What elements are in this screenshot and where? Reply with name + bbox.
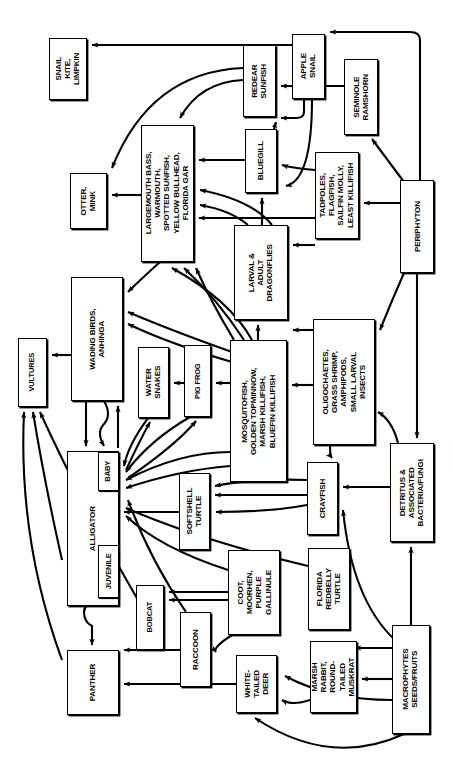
node-marsh-rabbit[interactable]: MARSH RABBIT, ROUND- TAILED MUSKRAT — [310, 641, 357, 713]
node-label: JUVENILE — [104, 554, 112, 590]
node-florida-redbelly-turtle[interactable]: FLORIDA REDBELLY TURTLE — [308, 548, 350, 630]
food-web-diagram: SNAIL KITE, LIMPKINREDEAR SUNFISHAPPLE S… — [0, 0, 453, 771]
node-tadpoles-flagfish[interactable]: TADPOLES, FLAGFISH, SAILFIN MOLLY, LEAST… — [315, 152, 359, 239]
node-bluegill[interactable]: BLUEGILL — [245, 129, 277, 193]
node-label: REDEAR SUNFISH — [250, 64, 268, 98]
node-water-snakes[interactable]: WATER SNAKES — [138, 347, 169, 418]
node-label: MACROPHYTES SEEDS/FRUITS — [402, 649, 420, 710]
node-softshell-turtle[interactable]: SOFTSHELL TURTLE — [179, 473, 210, 550]
node-mosquitofish[interactable]: MOSQUITOFISH, GOLDEN TOPMINNOW, MARSH KI… — [230, 340, 287, 482]
node-label: WATER SNAKES — [144, 366, 162, 399]
node-largemouth-bass[interactable]: LARGEMOUTH BASS, WARMOUTH, SPOTTED SUNFI… — [141, 125, 194, 262]
node-label: LARGEMOUTH BASS, WARMOUTH, SPOTTED SUNFI… — [144, 152, 190, 235]
node-seminole-ramshorn[interactable]: SEMINOLE RAMSHORN — [344, 59, 378, 135]
node-snail-kite-limpkin[interactable]: SNAIL KITE, LIMPKIN — [49, 38, 87, 100]
node-pig-frog[interactable]: PIG FROG — [184, 345, 211, 417]
node-label: DETRITUS & ASSOCIATED BACTERIA/FUNGI — [398, 459, 426, 526]
node-label: LARVAL & ADULT DRAGONFLIES — [247, 244, 275, 301]
node-label: COOT, MOORHEN, PURPLE GALLINULE — [236, 570, 273, 615]
node-redear-sunfish[interactable]: REDEAR SUNFISH — [243, 45, 276, 117]
node-alligator-baby[interactable]: BABY — [98, 452, 119, 491]
node-bobcat[interactable]: BOBCAT — [136, 585, 164, 650]
node-label: MOSQUITOFISH, GOLDEN TOPMINNOW, MARSH KI… — [240, 367, 277, 454]
node-wading-birds-anhinga[interactable]: WADING BIRDS, ANHINGA — [71, 277, 123, 401]
node-otter-mink[interactable]: OTTER, MINK — [70, 173, 107, 229]
node-alligator-juvenile[interactable]: JUVENILE — [98, 545, 119, 598]
node-larval-adult-dragonflies[interactable]: LARVAL & ADULT DRAGONFLIES — [234, 225, 288, 320]
node-label: ALLIGATOR — [88, 506, 97, 551]
node-label: WADING BIRDS, ANHINGA — [88, 308, 106, 369]
node-label: RACCOON — [191, 629, 200, 670]
node-crayfish[interactable]: CRAYFISH — [307, 462, 338, 535]
node-label: OTTER, MINK — [79, 187, 97, 216]
node-label: APPLE SNAIL — [299, 53, 317, 79]
node-panther[interactable]: PANTHER — [67, 650, 119, 715]
node-label: PERIPHYTON — [412, 201, 421, 252]
node-oligochaetes[interactable]: OLIGOCHAETES, GRASS SHRIMP, AMPHIPODS, S… — [313, 319, 375, 445]
node-label: VULTURES — [28, 353, 36, 392]
node-label: SNAIL KITE, LIMPKIN — [54, 53, 82, 85]
node-raccoon[interactable]: RACCOON — [180, 612, 211, 687]
node-label: MARSH RABBIT, ROUND- TAILED MUSKRAT — [310, 658, 356, 697]
node-white-tailed-deer[interactable]: WHITE- TAILED DEER — [236, 655, 277, 713]
node-apple-snail[interactable]: APPLE SNAIL — [292, 34, 325, 99]
node-label: CRAYFISH — [318, 479, 327, 518]
node-macrophytes[interactable]: MACROPHYTES SEEDS/FRUITS — [392, 625, 430, 734]
node-label: BABY — [104, 461, 112, 482]
node-label: SOFTSHELL TURTLE — [185, 488, 203, 535]
node-coot-moorhen[interactable]: COOT, MOORHEN, PURPLE GALLINULE — [228, 550, 280, 635]
node-label: WHITE- TAILED DEER — [243, 670, 271, 698]
node-label: OLIGOCHAETES, GRASS SHRIMP, AMPHIPODS, S… — [321, 349, 367, 414]
node-periphyton[interactable]: PERIPHYTON — [400, 180, 434, 273]
node-vultures[interactable]: VULTURES — [18, 338, 47, 407]
node-label: TADPOLES, FLAGFISH, SAILFIN MOLLY, LEAST… — [319, 163, 356, 228]
figure-credit: · · · · · · · · · · — [441, 470, 451, 770]
node-label: PIG FROG — [193, 363, 201, 398]
node-label: BOBCAT — [146, 602, 154, 633]
node-label: PANTHER — [88, 664, 97, 701]
node-label: BLUEGILL — [256, 141, 265, 180]
node-detritus[interactable]: DETRITUS & ASSOCIATED BACTERIA/FUNGI — [390, 443, 434, 542]
node-label: SEMINOLE RAMSHORN — [352, 74, 370, 120]
node-label: FLORIDA REDBELLY TURTLE — [315, 568, 343, 610]
